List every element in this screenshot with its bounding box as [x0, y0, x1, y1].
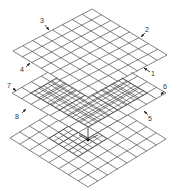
callout-label: 1 [151, 70, 155, 77]
callout-4: 4 [20, 63, 30, 73]
callout-1: 1 [144, 68, 155, 77]
callout-6: 6 [161, 83, 167, 95]
callout-2: 2 [141, 26, 149, 37]
callout-label: 4 [20, 66, 24, 73]
callout-label: 5 [148, 115, 152, 122]
callout-8: 8 [15, 109, 26, 120]
callout-label: 6 [163, 83, 167, 90]
callout-label: 2 [145, 26, 149, 33]
callout-label: 3 [40, 17, 44, 24]
callout-7: 7 [7, 82, 16, 91]
origin-dot-icon [87, 139, 90, 142]
callout-label: 8 [15, 113, 19, 120]
callout-5: 5 [144, 111, 152, 122]
callout-label: 7 [7, 82, 11, 89]
exploded-grid-diagram: 12345678 [0, 0, 176, 194]
callout-3: 3 [40, 17, 49, 30]
